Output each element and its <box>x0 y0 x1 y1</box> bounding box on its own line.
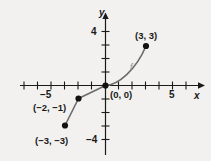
y-tick-label-4: 4 <box>91 27 97 37</box>
point-label-neg2-neg1: (−2, −1) <box>33 103 66 113</box>
y-tick-label-neg4: −4 <box>86 135 97 145</box>
point-marker-3-3 <box>143 43 149 49</box>
curve-label-f: f <box>130 63 133 72</box>
curve-right-arc <box>106 46 147 86</box>
coordinate-plane <box>0 0 211 161</box>
point-label-neg3-neg3: (−3, −3) <box>35 136 68 146</box>
x-axis-label: x <box>194 91 200 101</box>
y-axis-label: y <box>99 8 105 18</box>
x-tick-label-neg5: −5 <box>40 90 51 100</box>
x-tick-label-5: 5 <box>169 90 175 100</box>
curve-left-segments <box>65 86 106 126</box>
point-marker-0-0 <box>102 82 108 88</box>
point-label-3-3: (3, 3) <box>135 31 157 41</box>
graph-figure: y x −5 5 4 −4 (3, 3) (0, 0) (−2, −1) (−3… <box>0 0 211 161</box>
point-label-0-0: (0, 0) <box>110 90 132 100</box>
point-marker-neg2-neg1 <box>75 95 81 101</box>
point-marker-neg3-neg3 <box>62 122 68 128</box>
